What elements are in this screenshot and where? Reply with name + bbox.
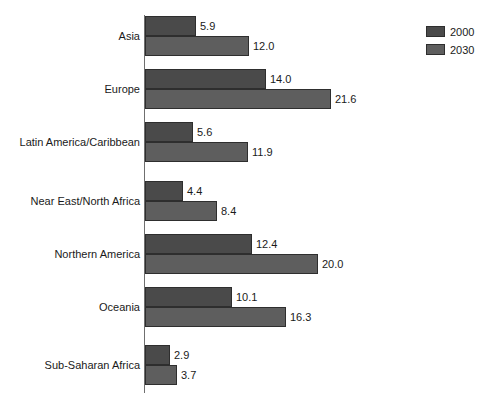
bar-row: 14.0 bbox=[145, 69, 485, 89]
bar-value-label: 12.0 bbox=[253, 39, 274, 53]
bar-2030[interactable] bbox=[145, 89, 331, 109]
legend-label: 2030 bbox=[450, 44, 474, 56]
bar-row: 11.9 bbox=[145, 142, 485, 162]
bar-value-label: 12.4 bbox=[256, 237, 277, 251]
bar-2000[interactable] bbox=[145, 16, 196, 36]
bar-value-label: 4.4 bbox=[187, 184, 202, 198]
bar-group: Europe14.021.6 bbox=[0, 69, 490, 109]
bar-row: 3.7 bbox=[145, 365, 485, 385]
bar-row: 16.3 bbox=[145, 307, 485, 327]
bar-group: Northern America12.420.0 bbox=[0, 234, 490, 274]
bar-2030[interactable] bbox=[145, 307, 286, 327]
legend-swatch-2000 bbox=[426, 26, 445, 37]
bar-value-label: 10.1 bbox=[236, 290, 257, 304]
legend-item-2000[interactable]: 2000 bbox=[426, 24, 488, 39]
category-label: Latin America/Caribbean bbox=[0, 136, 140, 148]
legend: 20002030 bbox=[426, 24, 488, 60]
bar-value-label: 14.0 bbox=[270, 72, 291, 86]
bar-row: 12.4 bbox=[145, 234, 485, 254]
bar-2000[interactable] bbox=[145, 287, 232, 307]
legend-swatch-2030 bbox=[426, 44, 445, 55]
bar-value-label: 21.6 bbox=[335, 92, 356, 106]
bar-value-label: 3.7 bbox=[181, 368, 196, 382]
bar-value-label: 2.9 bbox=[174, 348, 189, 362]
bar-2000[interactable] bbox=[145, 234, 252, 254]
plot-area: Asia5.912.0Europe14.021.6Latin America/C… bbox=[0, 0, 490, 407]
bar-group: Sub-Saharan Africa2.93.7 bbox=[0, 345, 490, 385]
bar-2000[interactable] bbox=[145, 345, 170, 365]
bar-2000[interactable] bbox=[145, 181, 183, 201]
bar-row: 8.4 bbox=[145, 201, 485, 221]
bar-2030[interactable] bbox=[145, 142, 248, 162]
bar-2030[interactable] bbox=[145, 254, 318, 274]
bar-value-label: 5.6 bbox=[197, 125, 212, 139]
category-label: Sub-Saharan Africa bbox=[0, 359, 140, 371]
bar-2030[interactable] bbox=[145, 201, 217, 221]
bar-2030[interactable] bbox=[145, 36, 249, 56]
category-label: Europe bbox=[0, 83, 140, 95]
category-label: Asia bbox=[0, 30, 140, 42]
bar-group: Oceania10.116.3 bbox=[0, 287, 490, 327]
bar-value-label: 20.0 bbox=[322, 257, 343, 271]
legend-label: 2000 bbox=[450, 26, 474, 38]
bar-group: Asia5.912.0 bbox=[0, 16, 490, 56]
bar-value-label: 11.9 bbox=[252, 145, 273, 159]
bar-chart: Asia5.912.0Europe14.021.6Latin America/C… bbox=[0, 0, 490, 407]
bar-row: 20.0 bbox=[145, 254, 485, 274]
category-label: Northern America bbox=[0, 248, 140, 260]
legend-item-2030[interactable]: 2030 bbox=[426, 42, 488, 57]
bar-row: 5.6 bbox=[145, 122, 485, 142]
bar-value-label: 16.3 bbox=[290, 310, 311, 324]
category-label: Near East/North Africa bbox=[0, 195, 140, 207]
bar-value-label: 8.4 bbox=[221, 204, 236, 218]
bar-2030[interactable] bbox=[145, 365, 177, 385]
bar-2000[interactable] bbox=[145, 122, 193, 142]
bar-group: Latin America/Caribbean5.611.9 bbox=[0, 122, 490, 162]
bar-row: 10.1 bbox=[145, 287, 485, 307]
bar-2000[interactable] bbox=[145, 69, 266, 89]
bar-row: 21.6 bbox=[145, 89, 485, 109]
bar-row: 4.4 bbox=[145, 181, 485, 201]
bar-row: 2.9 bbox=[145, 345, 485, 365]
category-label: Oceania bbox=[0, 301, 140, 313]
bar-value-label: 5.9 bbox=[200, 19, 215, 33]
bar-group: Near East/North Africa4.48.4 bbox=[0, 181, 490, 221]
